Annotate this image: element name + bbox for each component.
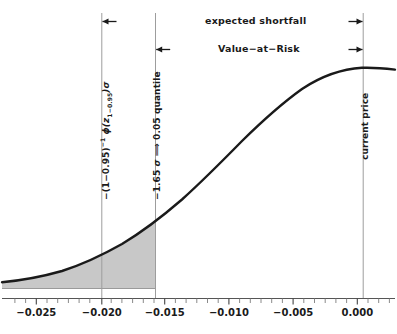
value-at-risk-arrow-left [156, 47, 170, 53]
expected-shortfall-arrow-right [349, 19, 363, 25]
value-at-risk-arrow-right [349, 47, 363, 53]
chart-figure: expected shortfall Value−at−Risk −(1−0.9… [0, 0, 397, 334]
x-axis-minor-ticks [15, 299, 390, 304]
chart-plot-area [0, 0, 397, 334]
distribution-curve [2, 68, 395, 283]
expected-shortfall-arrow-left [103, 19, 117, 25]
